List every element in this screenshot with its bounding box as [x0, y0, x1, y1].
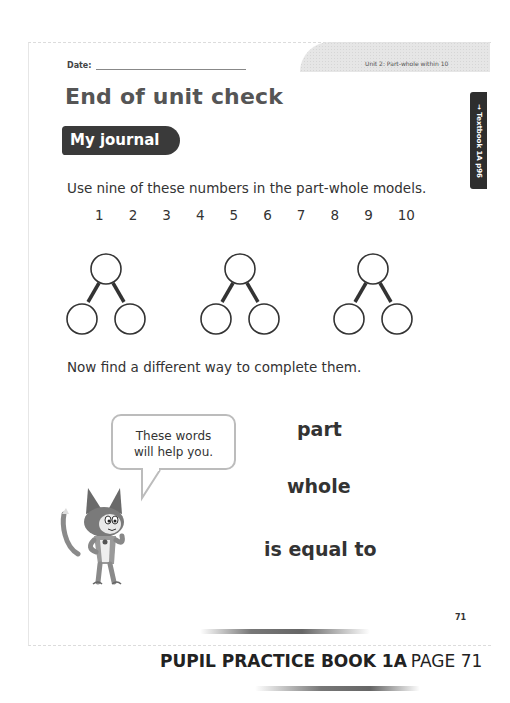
date-input-line[interactable] — [96, 69, 246, 70]
part-circle-left[interactable] — [201, 304, 231, 334]
section-badge: My journal — [62, 126, 180, 155]
part-circle-left[interactable] — [67, 304, 97, 334]
speech-bubble-tail — [140, 468, 164, 502]
number-item: 10 — [398, 207, 415, 223]
footer-divider-top — [200, 629, 370, 634]
word-bank-item: whole — [287, 475, 351, 497]
number-item: 9 — [364, 207, 373, 223]
number-item: 3 — [162, 207, 171, 223]
number-item: 6 — [263, 207, 272, 223]
footer-book-label: PUPIL PRACTICE BOOK 1APAGE 71 — [160, 651, 482, 671]
part-whole-model-3 — [333, 250, 413, 340]
word-bank-item: is equal to — [264, 538, 377, 560]
date-label: Date: — [67, 61, 92, 70]
textbook-reference-label: → Textbook 1A p96 — [475, 104, 483, 178]
number-item: 7 — [297, 207, 306, 223]
part-whole-model-1 — [66, 250, 146, 340]
cat-mascot-icon — [58, 484, 138, 594]
number-list: 1 2 3 4 5 6 7 8 9 10 — [95, 207, 415, 223]
whole-circle[interactable] — [358, 254, 388, 284]
number-item: 4 — [196, 207, 205, 223]
number-item: 2 — [129, 207, 138, 223]
unit-label: Unit 2: Part-whole within 10 — [365, 60, 448, 67]
part-circle-left[interactable] — [334, 304, 364, 334]
word-bank-item: part — [297, 418, 342, 440]
speech-bubble-text: These words will help you. — [113, 428, 234, 460]
page-number: 71 — [455, 613, 466, 622]
part-whole-models — [60, 250, 440, 350]
footer-divider-bottom — [255, 686, 420, 691]
whole-circle[interactable] — [91, 254, 121, 284]
speech-line-1: These words — [113, 428, 234, 444]
part-circle-right[interactable] — [249, 304, 279, 334]
book-title: PUPIL PRACTICE BOOK 1A — [160, 651, 407, 671]
number-item: 8 — [330, 207, 339, 223]
page-title: End of unit check — [65, 84, 283, 109]
part-circle-right[interactable] — [115, 304, 145, 334]
number-item: 1 — [95, 207, 104, 223]
page-label: PAGE 71 — [411, 651, 482, 671]
textbook-reference-tab: → Textbook 1A p96 — [470, 92, 487, 189]
whole-circle[interactable] — [225, 254, 255, 284]
number-item: 5 — [230, 207, 239, 223]
speech-bubble: These words will help you. — [111, 414, 236, 470]
followup-instruction: Now find a different way to complete the… — [67, 359, 361, 375]
instruction-text: Use nine of these numbers in the part-wh… — [67, 180, 426, 196]
speech-line-2: will help you. — [113, 444, 234, 460]
part-circle-right[interactable] — [382, 304, 412, 334]
part-whole-model-2 — [200, 250, 280, 340]
header-band — [300, 42, 490, 72]
